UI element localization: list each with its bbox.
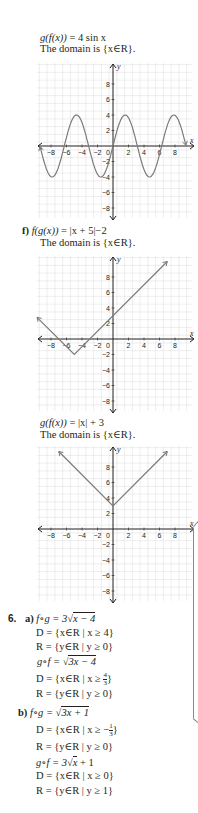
q6-b-fog-range: R = {y∈R | y ≥ 0} <box>36 741 113 753</box>
svg-text:y: y <box>116 445 121 454</box>
q6-a-gof: g∘f = √3x − 4 <box>37 656 96 668</box>
svg-text:−4: −4 <box>102 557 110 564</box>
svg-text:6: 6 <box>106 289 110 296</box>
svg-text:−2: −2 <box>94 342 102 349</box>
svg-text:−6: −6 <box>102 572 110 579</box>
svg-text:−6: −6 <box>63 532 71 539</box>
svg-text:2: 2 <box>106 510 110 517</box>
chart-svg: −8−6−4−2024688642−2−4−6−8xy <box>30 439 194 611</box>
svg-text:−2: −2 <box>102 351 110 358</box>
svg-text:0: 0 <box>106 342 110 349</box>
svg-text:0: 0 <box>106 532 110 539</box>
q6-a-fog: 6. a) f∘g = 3√x − 4 <box>8 613 95 625</box>
graph-abs-x-plus-3: −8−6−4−2024688642−2−4−6−8xy <box>30 439 194 611</box>
svg-text:−4: −4 <box>78 149 86 156</box>
svg-text:4: 4 <box>142 149 146 156</box>
margin-bracket <box>193 528 198 718</box>
svg-text:−6: −6 <box>102 382 110 389</box>
svg-text:−8: −8 <box>47 149 55 156</box>
svg-text:4: 4 <box>106 305 110 312</box>
domain-statement: The domain is {x∈R}. <box>40 237 135 249</box>
svg-text:2: 2 <box>127 149 131 156</box>
chart-svg: −8−6−4−2024688642−2−4−6−8xy <box>30 56 194 228</box>
q6-b-gof: g∘f = 3√x + 1 <box>36 757 94 769</box>
svg-text:4: 4 <box>142 532 146 539</box>
equation-rhs: = 4 sin x <box>67 32 106 43</box>
equation-lhs: g(f(x)) <box>40 417 67 428</box>
svg-text:8: 8 <box>173 149 177 156</box>
svg-text:8: 8 <box>173 532 177 539</box>
q6-b-gof-domain: D = {x∈R | x ≥ 0} <box>36 770 114 782</box>
svg-text:−8: −8 <box>47 532 55 539</box>
chart-svg: −8−6−4−2024688642−2−4−6−8xy <box>30 249 194 421</box>
svg-text:−2: −2 <box>102 541 110 548</box>
q6-b-fog-domain: D = {x∈R | x ≥ −13} <box>36 723 118 738</box>
graph-4sinx: −8−6−4−2024688642−2−4−6−8xy <box>30 56 194 228</box>
svg-text:8: 8 <box>173 342 177 349</box>
grid <box>37 446 192 601</box>
svg-text:8: 8 <box>106 81 110 88</box>
part-label: b) <box>18 707 27 718</box>
part-label: f) <box>22 225 29 236</box>
svg-text:8: 8 <box>106 274 110 281</box>
q6-b-fog: b) f∘g = √3x + 1 <box>18 707 89 719</box>
svg-text:y: y <box>116 62 121 71</box>
equation-rhs: = |x| + 3 <box>67 417 104 428</box>
equation-rhs: = |x + 5|−2 <box>58 225 106 236</box>
part-f-equation: f) f(g(x)) = |x + 5|−2 <box>22 225 107 237</box>
graph-abs-x-plus-5-minus-2: −8−6−4−2024688642−2−4−6−8xy <box>30 249 194 421</box>
svg-text:8: 8 <box>106 464 110 471</box>
svg-text:x: x <box>189 329 194 338</box>
svg-text:−8: −8 <box>102 588 110 595</box>
q6-a-fog-range: R = {y∈R | y ≥ 0} <box>36 641 113 653</box>
svg-text:−6: −6 <box>63 342 71 349</box>
svg-text:y: y <box>116 255 121 264</box>
svg-text:−2: −2 <box>94 149 102 156</box>
svg-text:−6: −6 <box>102 189 110 196</box>
svg-text:−2: −2 <box>94 532 102 539</box>
q6-b-gof-range: R = {y∈R | y ≥ 1} <box>36 785 113 797</box>
svg-text:6: 6 <box>158 342 162 349</box>
svg-text:4: 4 <box>106 112 110 119</box>
svg-text:−4: −4 <box>102 367 110 374</box>
svg-text:0: 0 <box>106 149 110 156</box>
svg-text:6: 6 <box>106 96 110 103</box>
q6-a-gof-domain: D = {x∈R | x ≥ 43} <box>36 672 112 687</box>
svg-text:−8: −8 <box>102 398 110 405</box>
svg-text:−8: −8 <box>102 205 110 212</box>
svg-text:−4: −4 <box>78 342 86 349</box>
part-label: a) <box>25 613 34 624</box>
svg-text:x: x <box>189 136 194 145</box>
equation-lhs: g(f(x)) <box>40 32 67 43</box>
svg-text:2: 2 <box>106 127 110 134</box>
question-number: 6. <box>8 613 16 624</box>
equation-lhs: f(g(x)) <box>32 225 59 236</box>
svg-text:2: 2 <box>127 342 131 349</box>
q6-a-fog-domain: D = {x∈R | x ≥ 4} <box>36 627 114 639</box>
svg-text:6: 6 <box>106 479 110 486</box>
equation-gfx-abs: g(f(x)) = |x| + 3 <box>40 417 104 429</box>
q6-a-gof-range: R = {y∈R | y ≥ 0} <box>36 688 113 700</box>
svg-text:6: 6 <box>158 532 162 539</box>
domain-statement: The domain is {x∈R}. <box>40 43 135 55</box>
svg-text:−8: −8 <box>47 342 55 349</box>
svg-text:4: 4 <box>142 342 146 349</box>
svg-text:−4: −4 <box>78 532 86 539</box>
grid <box>37 256 192 411</box>
svg-text:2: 2 <box>127 532 131 539</box>
